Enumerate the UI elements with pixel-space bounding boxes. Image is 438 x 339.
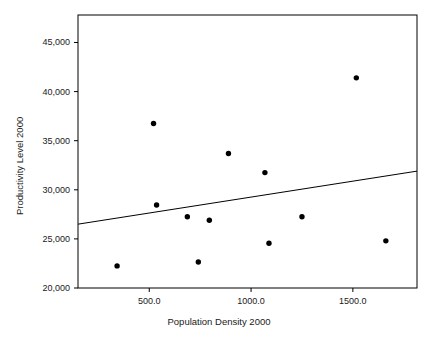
data-point (299, 214, 304, 219)
y-tick-label: 45,000 (26, 38, 70, 47)
data-points-group (114, 75, 388, 268)
data-point (114, 263, 119, 268)
x-axis-title: Population Density 2000 (0, 316, 438, 327)
scatter-plot-figure: 20,00025,00030,00035,00040,00045,000 500… (0, 0, 438, 339)
y-tick-label: 20,000 (26, 284, 70, 293)
x-tick-label: 1000.0 (237, 297, 265, 306)
data-point (185, 214, 190, 219)
y-axis-tick-marks (74, 42, 78, 288)
data-point (383, 238, 388, 243)
data-point (154, 202, 159, 207)
y-axis-title: Productivity Level 2000 (14, 117, 25, 215)
y-tick-label: 35,000 (26, 136, 70, 145)
x-tick-label: 500.0 (138, 297, 161, 306)
axis-frame (78, 15, 417, 288)
data-point (151, 121, 156, 126)
x-axis-tick-marks (149, 288, 353, 292)
y-tick-label: 30,000 (26, 185, 70, 194)
x-tick-label: 1500.0 (339, 297, 367, 306)
data-point (196, 259, 201, 264)
data-point (262, 170, 267, 175)
data-point (207, 218, 212, 223)
data-point (354, 75, 359, 80)
data-point (226, 151, 231, 156)
data-point (266, 241, 271, 246)
y-tick-label: 40,000 (26, 87, 70, 96)
regression-line-segment (78, 171, 417, 224)
regression-line (78, 171, 417, 224)
y-tick-label: 25,000 (26, 234, 70, 243)
plot-frame (78, 15, 417, 288)
